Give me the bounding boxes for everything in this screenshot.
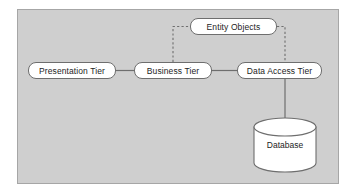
node-presentation-tier[interactable]: Presentation Tier [28, 62, 116, 79]
node-business-tier-label: Business Tier [147, 66, 199, 76]
node-business-tier[interactable]: Business Tier [134, 62, 212, 79]
architecture-diagram: Presentation Tier Business Tier Data Acc… [0, 0, 354, 193]
node-database[interactable]: Database [253, 117, 317, 173]
node-database-label-wrap: Database [253, 117, 317, 173]
node-database-label: Database [267, 140, 303, 150]
node-data-access-tier-label: Data Access Tier [247, 66, 312, 76]
node-data-access-tier[interactable]: Data Access Tier [237, 62, 322, 79]
node-entity-objects-label: Entity Objects [207, 22, 261, 32]
node-entity-objects[interactable]: Entity Objects [190, 18, 277, 35]
node-presentation-tier-label: Presentation Tier [39, 66, 105, 76]
